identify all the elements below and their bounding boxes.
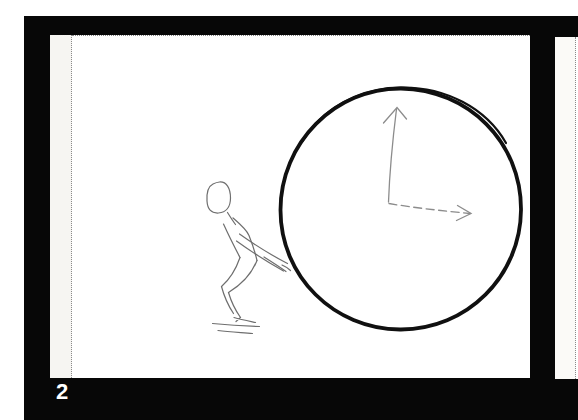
frame-number-label: 2 [56, 380, 68, 404]
ground-line-top [213, 324, 260, 327]
figure-head [207, 182, 231, 213]
sketch-figure-pushing-clock [50, 35, 530, 378]
figure-hand [264, 257, 291, 272]
figure-shin-back [229, 293, 241, 318]
figure-back [233, 218, 257, 261]
scanned-filmstrip-page: 2 [0, 0, 578, 420]
clock-minute-hand-arrow [384, 108, 407, 203]
storyboard-slide-current [50, 35, 530, 378]
figure-foot [234, 318, 256, 323]
perforation-strip-next [555, 37, 576, 379]
figure-chest [224, 224, 241, 258]
storyboard-slide-next-partial [555, 37, 578, 379]
minute-hand-shaft [389, 109, 397, 202]
ground-line-bottom [218, 331, 253, 334]
pushing-figure [207, 182, 291, 334]
figure-arm-lower [237, 241, 284, 271]
clock-hour-hand-arrow [389, 204, 471, 221]
clock-circle [281, 88, 522, 329]
clock-face [281, 87, 522, 329]
figure-thigh-back [229, 261, 258, 293]
figure-thigh-front [222, 258, 241, 287]
